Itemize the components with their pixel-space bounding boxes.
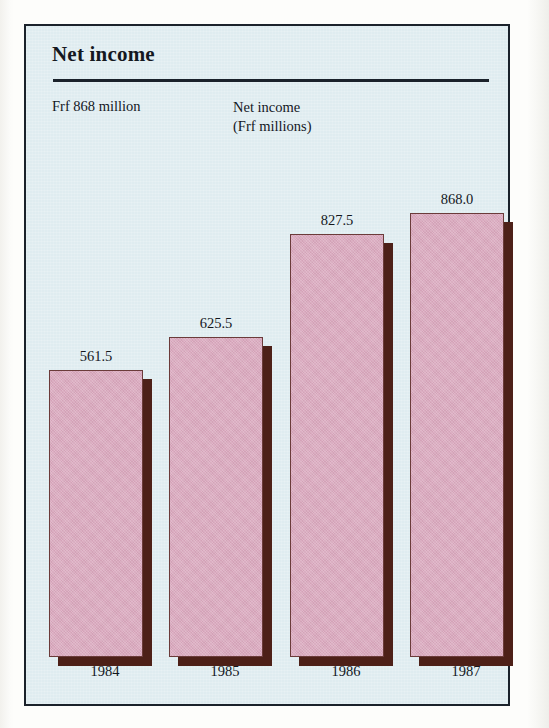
page-left-edge (0, 0, 14, 728)
chart-panel: Net income Frf 868 million Net income (F… (24, 24, 510, 706)
x-axis-tick-1987: 1987 (419, 663, 513, 680)
plot-area: 561.51984625.51985827.51986868.01987 (26, 26, 508, 704)
bar-value-label: 868.0 (397, 191, 517, 208)
bar-group: 868.01987 (26, 26, 508, 704)
bar-1987 (410, 213, 504, 657)
page-right-edge (527, 0, 549, 728)
